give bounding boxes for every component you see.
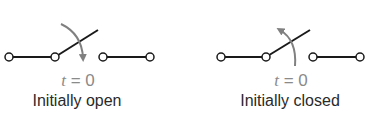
time-label-open: t = 0 [61,71,95,91]
closing-arrow-icon [61,24,83,58]
terminal-node [217,53,225,61]
contact-node [99,53,107,61]
switch-blade [266,30,310,57]
pivot-node [262,53,270,61]
switch-blade [55,30,98,57]
terminal-node [146,53,154,61]
switch-diagram [0,0,373,130]
time-equals: = 0 [71,71,95,90]
time-variable: t [61,71,66,90]
caption-initially-open: Initially open [33,92,122,110]
caption-initially-closed: Initially closed [240,92,340,110]
time-label-closed: t = 0 [274,71,308,91]
terminal-node [356,53,364,61]
switch-initially-open [5,24,154,61]
terminal-node [5,53,13,61]
pivot-node [51,53,59,61]
time-equals: = 0 [284,71,308,90]
switch-initially-closed [217,30,364,66]
time-variable: t [274,71,279,90]
contact-node [309,53,317,61]
